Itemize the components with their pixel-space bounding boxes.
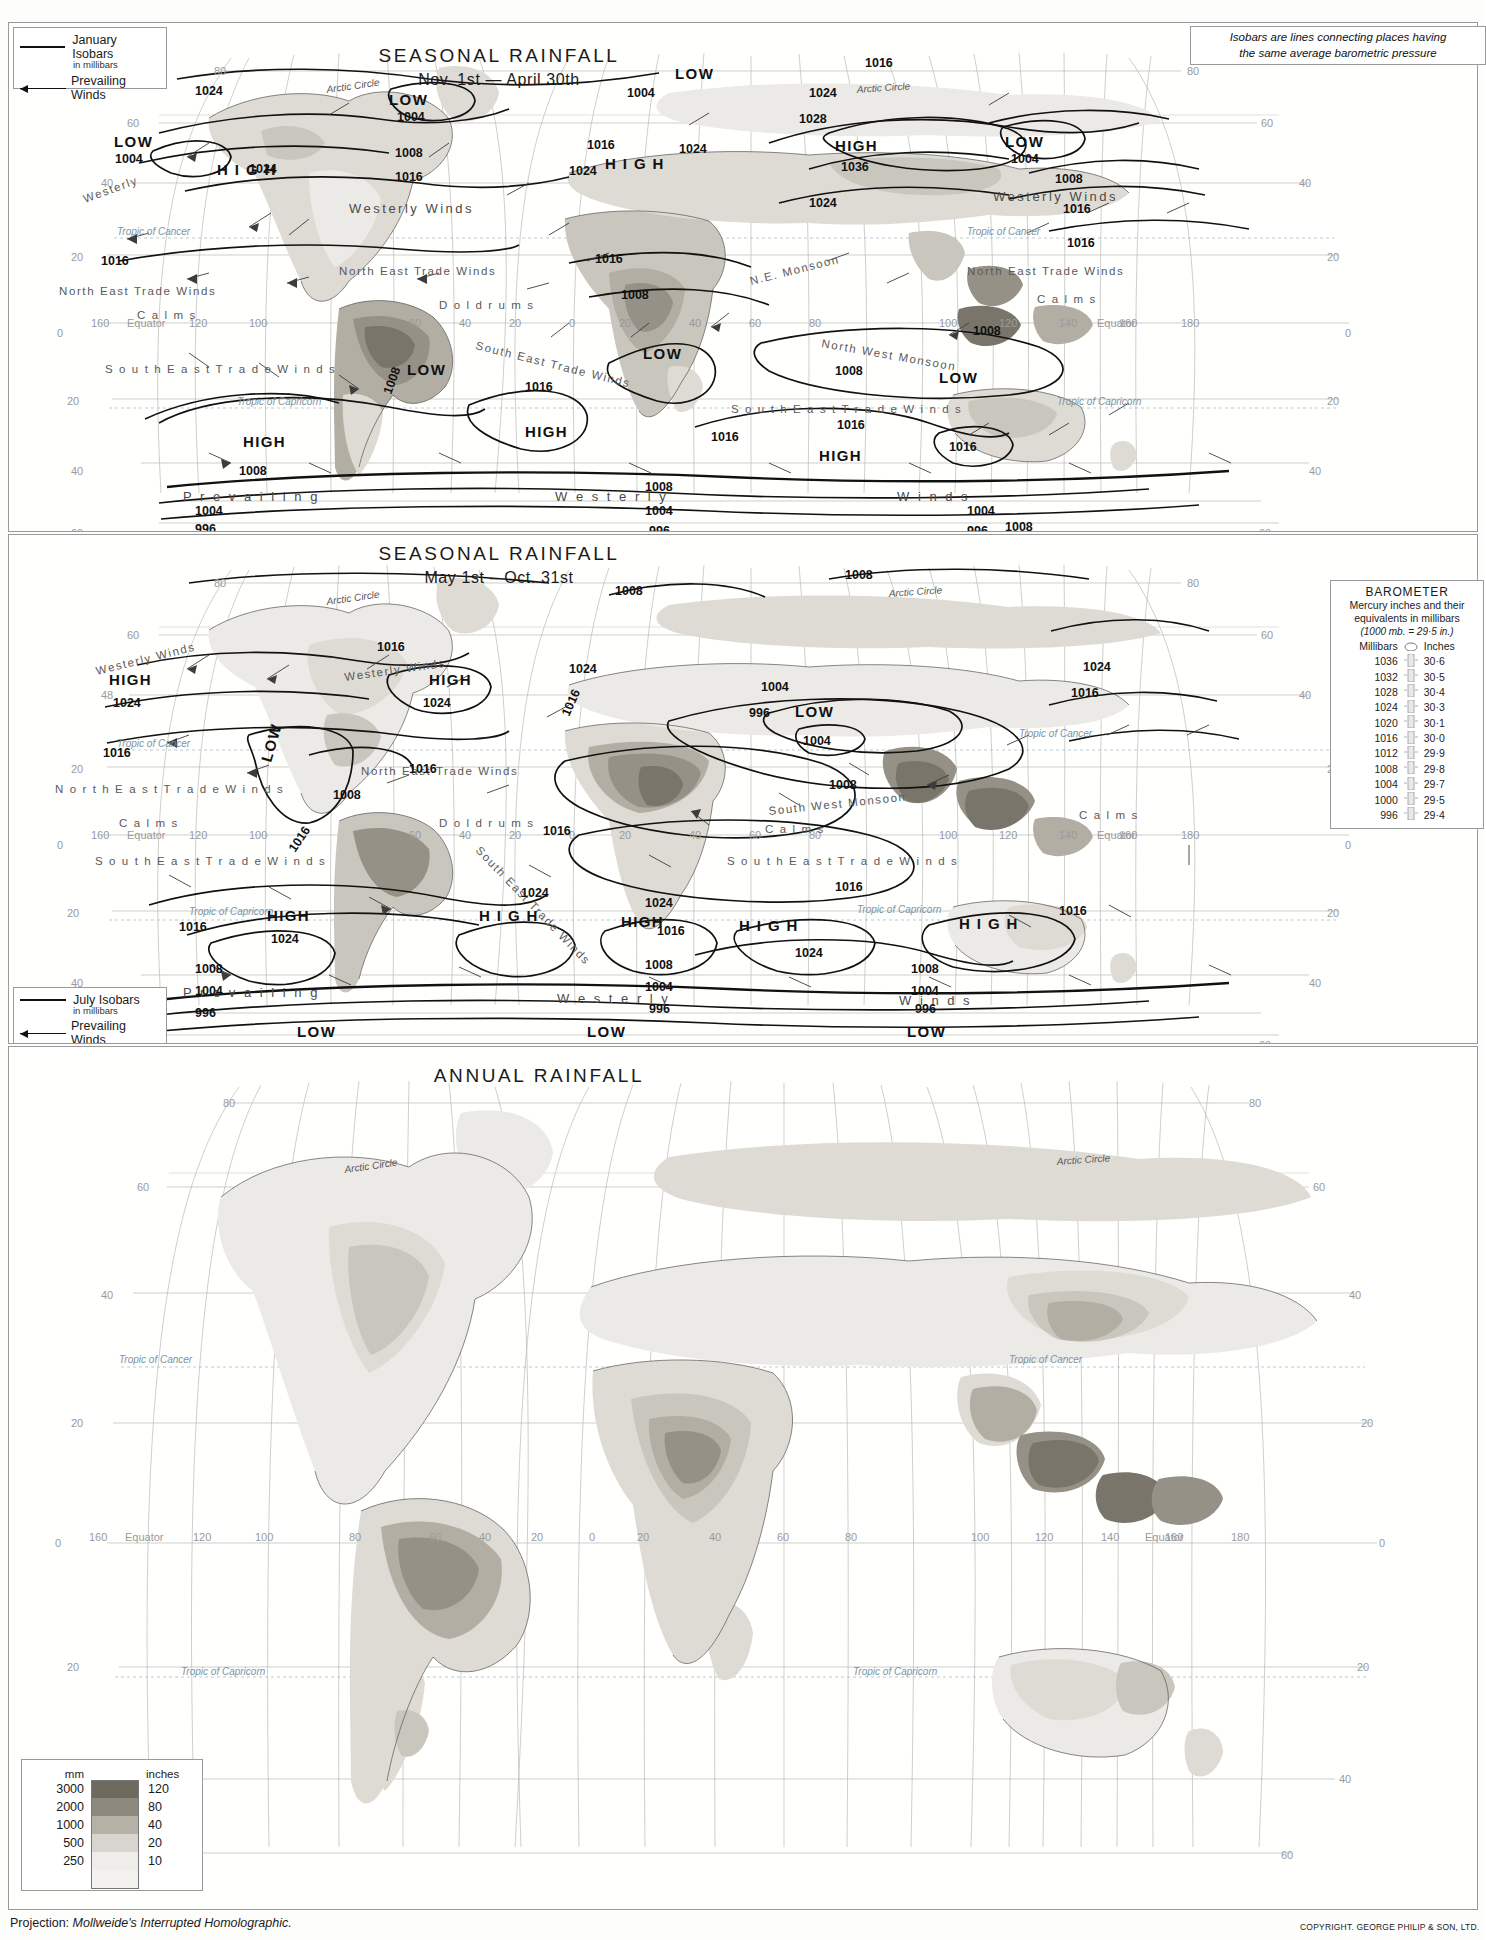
map-panel-july: 80 60 48 20 0 20 40 60 80 60 40 20 0 20 … [8,534,1478,1044]
wind-arrow-icon [20,1028,64,1038]
rainfall-scale-row: 100040 [36,1816,188,1834]
svg-text:S o u t h E a s t T r a d e: S o u t h E a s t T r a d e W i n d s [727,855,958,867]
svg-text:1008: 1008 [645,480,673,494]
svg-text:20: 20 [71,251,83,263]
svg-text:60: 60 [777,1531,789,1543]
rainfall-shading-annual [218,1110,1317,1803]
svg-text:100: 100 [249,829,267,841]
svg-text:LOW: LOW [1005,133,1044,150]
svg-text:Tropic of Cancer: Tropic of Cancer [967,226,1041,237]
svg-text:Tropic of Capricorn: Tropic of Capricorn [1057,396,1142,407]
barometer-tube-segment [1404,792,1418,807]
svg-text:1004: 1004 [645,504,673,518]
svg-text:H I G H: H I G H [739,917,799,934]
svg-text:48: 48 [101,689,113,701]
svg-text:40: 40 [1299,177,1311,189]
svg-text:40: 40 [689,317,701,329]
svg-text:80: 80 [1187,577,1199,589]
barometer-millibar-value: 1000 [1353,792,1404,807]
svg-text:60: 60 [1259,1039,1271,1043]
svg-text:1008: 1008 [973,324,1001,338]
panel-title-text-january: SEASONAL RAINFALL [349,45,649,67]
panel-title-annual: ANNUAL RAINFALL [389,1065,689,1087]
svg-text:S o u t h E a s t T r a d e: S o u t h E a s t T r a d e W i n d s [95,855,326,867]
svg-text:20: 20 [1327,251,1339,263]
svg-text:D o l d r u m s: D o l d r u m s [439,817,535,829]
svg-text:1024: 1024 [271,932,299,946]
svg-text:0: 0 [55,1537,61,1549]
svg-text:1016: 1016 [949,440,977,454]
svg-text:1008: 1008 [911,962,939,976]
svg-text:80: 80 [349,1531,361,1543]
svg-text:1008: 1008 [1055,172,1083,186]
barometer-tube-segment [1404,807,1418,822]
svg-text:LOW: LOW [389,91,428,108]
svg-text:North East Trade Winds: North East Trade Winds [59,285,216,297]
svg-text:1024: 1024 [195,84,223,98]
svg-text:Tropic of Cancer: Tropic of Cancer [1019,728,1093,739]
barometer-inches-value: 30·1 [1418,715,1461,730]
barometer-tube-segment [1404,731,1418,746]
barometer-tube-segment [1404,777,1418,792]
svg-text:North East Trade Winds: North East Trade Winds [361,765,518,777]
svg-text:60: 60 [1259,527,1271,531]
svg-text:60: 60 [409,317,421,329]
svg-text:180: 180 [1181,317,1199,329]
svg-text:LOW: LOW [795,703,834,720]
svg-text:1016: 1016 [1067,236,1095,250]
svg-text:C a l m s: C a l m s [1079,809,1139,821]
svg-text:996: 996 [195,522,216,531]
svg-text:1004: 1004 [761,680,789,694]
svg-text:180: 180 [1231,1531,1249,1543]
svg-text:1004: 1004 [803,734,831,748]
barometer-tube-segment [1404,746,1418,761]
barometer-tube-segment [1404,669,1418,684]
svg-text:80: 80 [1249,1097,1261,1109]
barometer-millibar-value: 996 [1353,807,1404,822]
isobar-line-icon [20,999,66,1001]
svg-text:1008: 1008 [835,364,863,378]
svg-text:North East Trade Winds: North East Trade Winds [967,265,1124,277]
svg-text:20: 20 [67,1661,79,1673]
legend-wind-july: Prevailing Winds [20,1019,160,1044]
scale-inches-value: 40 [139,1818,188,1832]
barometer-tube-segment [1404,715,1418,730]
svg-text:Westerly Winds: Westerly Winds [993,189,1118,204]
svg-text:1028: 1028 [799,112,827,126]
barometer-millibar-value: 1016 [1353,731,1404,746]
svg-text:0: 0 [589,1531,595,1543]
svg-text:40: 40 [1309,977,1321,989]
svg-text:C a l m s: C a l m s [137,309,197,321]
legend-isobar-label: January Isobars [72,33,160,61]
barometer-row: 99629·4 [1353,807,1460,822]
svg-text:1016: 1016 [837,418,865,432]
rainfall-scale-annual: mm inches 30001202000801000405002025010 [36,1768,188,1888]
barometer-row: 101630·0 [1353,731,1460,746]
svg-text:HIGH: HIGH [109,671,152,688]
svg-text:60: 60 [127,629,139,641]
svg-text:1016: 1016 [657,924,685,938]
svg-text:Westerly Winds: Westerly Winds [349,201,474,216]
barometer-inches-value: 29·9 [1418,746,1461,761]
barometer-row: 101229·9 [1353,746,1460,761]
svg-text:20: 20 [619,829,631,841]
barometer-row: 102030·1 [1353,715,1460,730]
svg-text:HIGH: HIGH [525,423,568,440]
barometer-millibar-value: 1012 [1353,746,1404,761]
legend-july: July Isobars in millibars Prevailing Win… [13,987,167,1044]
barometer-millibar-value: 1028 [1353,684,1404,699]
barometer-millibar-value: 1036 [1353,654,1404,669]
svg-text:C a l m s: C a l m s [765,823,825,835]
wind-arrow-icon [20,83,64,93]
barometer-conversion: (1000 mb. = 29·5 in.) [1337,626,1477,637]
svg-text:D o l d r u m s: D o l d r u m s [439,299,535,311]
svg-text:1008: 1008 [395,146,423,160]
svg-text:1024: 1024 [809,86,837,100]
svg-text:60: 60 [1313,1181,1325,1193]
svg-text:1024: 1024 [569,662,597,676]
svg-text:1004: 1004 [397,110,425,124]
svg-text:100: 100 [255,1531,273,1543]
svg-text:40: 40 [1299,689,1311,701]
svg-text:20: 20 [67,907,79,919]
svg-text:1008: 1008 [645,958,673,972]
